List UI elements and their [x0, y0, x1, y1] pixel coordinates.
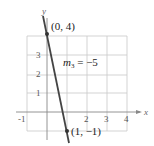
x-tick-2: 2 — [84, 114, 89, 124]
x-axis-label: x — [143, 107, 148, 117]
x-tick-neg1: -1 — [18, 114, 26, 124]
label-point-1-neg1: (1, −1) — [71, 125, 101, 138]
x-tick-4: 4 — [124, 114, 129, 124]
slope-graph: x y -1 2 3 4 1 2 3 (0, 4) (1, −1) m3 = −… — [0, 0, 154, 146]
y-tick-3: 3 — [36, 50, 41, 60]
point-1-neg1 — [65, 129, 69, 133]
slope-annotation: m3 = −5 — [63, 56, 98, 70]
y-tick-1: 1 — [36, 88, 41, 98]
point-0-4 — [45, 32, 49, 36]
y-tick-2: 2 — [36, 69, 41, 79]
y-axis-label: y — [41, 6, 46, 16]
x-tick-3: 3 — [104, 114, 109, 124]
label-point-0-4: (0, 4) — [51, 20, 75, 33]
x-axis-arrow-icon — [136, 110, 142, 114]
grid — [27, 36, 127, 131]
